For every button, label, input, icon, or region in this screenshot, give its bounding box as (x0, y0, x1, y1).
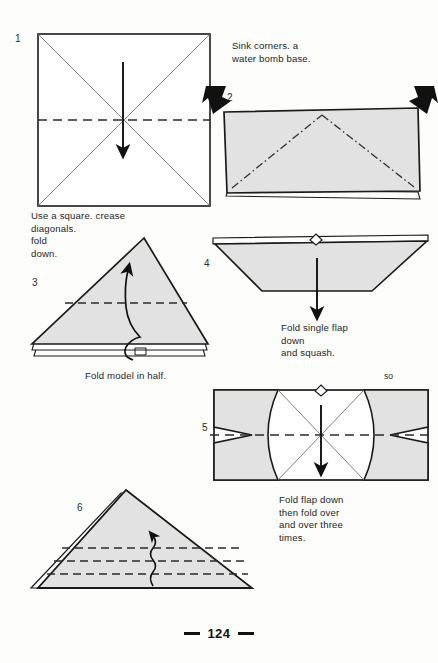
step-1-figure (38, 34, 210, 206)
folio-dash-right (238, 632, 254, 634)
step-number-6: 6 (77, 502, 83, 513)
caption-step-6: Fold flap down then fold over and over t… (279, 494, 429, 544)
step-number-2: 2 (227, 92, 233, 103)
folio-dash-left (184, 632, 200, 634)
step-6-triangle (38, 490, 252, 588)
caption-step-1: Use a square. crease diagonals. fold dow… (31, 210, 206, 260)
step-4-figure (213, 234, 428, 312)
folio-number: 124 (207, 626, 230, 641)
caption-step-3: Fold model in half. (85, 370, 245, 383)
step-2-paper-panel (224, 108, 420, 193)
caption-step-5-so: so (384, 371, 393, 381)
caption-step-2: Sink corners. a water bomb base. (232, 40, 412, 65)
caption-step-4: Fold single flap down and squash. (281, 322, 431, 360)
step-number-3: 3 (32, 277, 38, 288)
step-6-figure (31, 490, 252, 588)
step-2-figure (202, 86, 438, 199)
origami-instruction-page: 1 2 3 4 5 6 Use a square. crease diagona… (0, 0, 438, 663)
step-number-1: 1 (15, 33, 21, 44)
step-number-5: 5 (202, 422, 208, 433)
step-5-figure (210, 385, 432, 480)
step-4-trapezoid (215, 241, 427, 291)
page-folio: 124 (0, 625, 438, 641)
